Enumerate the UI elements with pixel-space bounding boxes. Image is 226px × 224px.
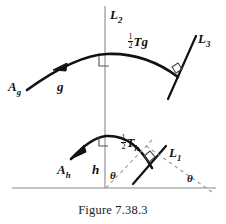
label-L2: L2 (110, 8, 122, 24)
upper-arc-arrowhead (53, 63, 67, 71)
label-A-h: Ah (57, 163, 71, 179)
label-theta-right: θ (187, 173, 193, 184)
label-L3: L3 (198, 32, 210, 48)
figure-caption: Figure 7.38.3 (0, 203, 226, 218)
label-curve-h: h (92, 163, 99, 176)
right-angle-mark-upper-apex (99, 56, 109, 66)
label-A-g: Ag (8, 80, 21, 96)
fraction-one-half-upper: 12 (128, 33, 133, 49)
label-half-T-h: 12Th (121, 134, 139, 153)
geometry-diagram (0, 0, 226, 224)
label-L1: L1 (169, 146, 181, 162)
figure-container: L2 L3 L1 Ag Ah g h 12Tg 12Th θ θ Figure … (0, 0, 226, 224)
label-theta-left: θ (110, 170, 116, 181)
fraction-one-half-lower: 12 (121, 134, 126, 150)
lower-arc-arrowhead (71, 145, 86, 159)
upper-arc-curve (27, 54, 178, 90)
label-half-T-g: 12Tg (128, 33, 148, 49)
label-curve-g: g (57, 80, 64, 93)
